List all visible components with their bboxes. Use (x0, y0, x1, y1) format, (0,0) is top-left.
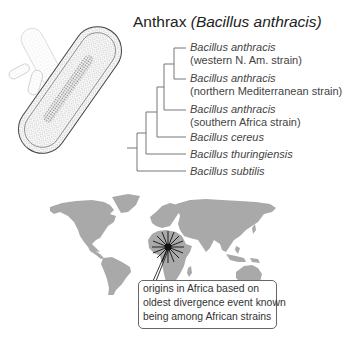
callout-line: origins in Africa based on (143, 282, 276, 296)
leaf-species: Bacillus subtilis (190, 165, 265, 178)
starburst-icon (148, 227, 188, 267)
tree-leaf: Bacillus cereus (190, 131, 264, 144)
origin-callout: origins in Africa based on oldest diverg… (138, 280, 277, 329)
tree-leaf: Bacillus thuringiensis (190, 148, 293, 161)
leaf-species: Bacillus anthracis (190, 72, 342, 85)
bacterium-illustration-icon (0, 0, 125, 175)
leaf-species: Bacillus cereus (190, 131, 264, 144)
tree-leaf: Bacillus anthracis (western N. Am. strai… (190, 41, 302, 67)
tree-leaf: Bacillus anthracis (southern Africa stra… (190, 103, 301, 129)
callout-line: being among African strains (143, 310, 276, 324)
title-scientific-name: (Bacillus anthracis) (191, 13, 322, 30)
leaf-strain: (western N. Am. strain) (190, 54, 302, 67)
figure-title: Anthrax (Bacillus anthracis) (133, 13, 322, 31)
leaf-species: Bacillus thuringiensis (190, 148, 293, 161)
leaf-species: Bacillus anthracis (190, 41, 302, 54)
leaf-species: Bacillus anthracis (190, 103, 301, 116)
tree-leaf: Bacillus anthracis (northern Mediterrane… (190, 72, 342, 98)
leaf-strain: (southern Africa strain) (190, 116, 301, 129)
callout-line: oldest divergence event known (143, 296, 276, 310)
phylogenetic-tree-lines (120, 40, 192, 180)
title-common-name: Anthrax (133, 13, 186, 30)
leaf-strain: (northern Mediterranean strain) (190, 85, 342, 98)
tree-leaf: Bacillus subtilis (190, 165, 265, 178)
